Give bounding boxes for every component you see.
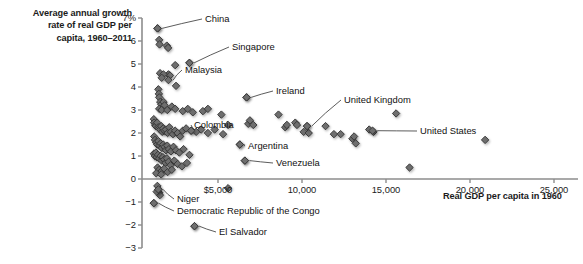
point-label: Ireland	[276, 85, 305, 96]
point-label: China	[205, 13, 230, 24]
x-tick-label: 25,000	[519, 184, 583, 195]
data-point	[204, 129, 211, 136]
point-label: El Salvador	[219, 226, 267, 237]
data-point	[406, 164, 413, 171]
data-point-labeled	[150, 199, 157, 206]
point-label: Argentina	[248, 140, 288, 151]
y-tick-label: 6	[106, 35, 136, 46]
y-tick-label: −1	[106, 196, 136, 207]
y-tick-label: 4	[106, 81, 136, 92]
data-point	[219, 130, 226, 137]
data-point	[171, 61, 178, 68]
x-tick-label: 15,000	[351, 184, 421, 195]
leader-line	[244, 145, 245, 147]
y-tick-label: 7%	[106, 12, 136, 23]
plot-area	[0, 0, 583, 264]
data-point	[186, 151, 193, 158]
point-label: Democratic Republic of the Congo	[177, 205, 320, 216]
point-label: Venezuela	[276, 157, 320, 168]
data-point	[218, 111, 225, 118]
point-label: United Kingdom	[344, 94, 411, 105]
leader-line	[312, 100, 341, 126]
data-point-labeled	[191, 222, 198, 229]
data-point	[337, 130, 344, 137]
scatter-chart: Average annual growth rate of real GDP p…	[0, 0, 583, 264]
y-tick-label: 2	[106, 127, 136, 138]
data-point	[481, 136, 488, 143]
point-label: Malaysia	[185, 64, 222, 75]
leader-line	[250, 161, 273, 163]
point-label: Niger	[177, 193, 199, 204]
y-tick-label: 0	[106, 173, 136, 184]
y-tick-label: −3	[106, 242, 136, 253]
data-point	[275, 111, 282, 118]
y-tick-label: 5	[106, 58, 136, 69]
x-tick-label: 20,000	[435, 184, 505, 195]
data-point-labeled	[243, 94, 250, 101]
data-point	[322, 122, 329, 129]
data-point	[172, 82, 179, 89]
leader-line	[251, 91, 273, 97]
point-label: Colombia	[194, 119, 234, 130]
y-tick-label: 3	[106, 104, 136, 115]
data-point-labeled	[154, 25, 161, 32]
leader-line	[194, 47, 229, 63]
point-label: United States	[420, 125, 476, 136]
x-tick-label: 10,000	[267, 184, 337, 195]
data-point	[392, 110, 399, 117]
y-tick-label: −2	[106, 219, 136, 230]
y-tick-label: 1	[106, 150, 136, 161]
point-label: Singapore	[232, 41, 275, 52]
data-point-labeled	[241, 157, 248, 164]
data-point-labeled	[236, 141, 243, 148]
leader-line	[162, 19, 202, 28]
leader-line	[163, 189, 174, 199]
leader-line	[159, 203, 174, 211]
leader-line	[173, 70, 182, 80]
leader-line	[199, 226, 216, 232]
